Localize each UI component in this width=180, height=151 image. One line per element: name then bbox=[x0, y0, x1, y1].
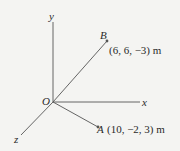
z-axis-label: z bbox=[14, 134, 18, 145]
point-a-label: A bbox=[97, 124, 104, 135]
vector-ob bbox=[53, 41, 107, 102]
point-a-coords: (10, −2, 3) m bbox=[107, 124, 165, 135]
vector-oa bbox=[53, 102, 98, 127]
point-b-label: B bbox=[100, 30, 107, 41]
origin-label: O bbox=[42, 96, 50, 107]
y-axis-label: y bbox=[49, 11, 54, 22]
point-b-coords: (6, 6, −3) m bbox=[109, 45, 161, 56]
x-axis-label: x bbox=[142, 97, 147, 108]
